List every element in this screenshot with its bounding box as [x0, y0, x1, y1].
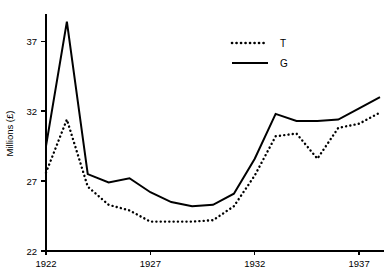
line-chart: 22273237 1922192719321937 Millions (£) T…: [0, 0, 388, 278]
y-axis-title-group: Millions (£): [4, 111, 15, 157]
y-tick-label: 27: [26, 176, 37, 187]
y-tick-label: 32: [26, 106, 37, 117]
legend-label-g: G: [280, 58, 288, 69]
chart-legend: TG: [232, 38, 288, 69]
data-series-group: [46, 22, 380, 222]
legend-label-t: T: [280, 38, 286, 49]
plot-axes: [46, 14, 384, 251]
y-axis-ticks: 22273237: [26, 36, 46, 257]
x-tick-label: 1922: [35, 258, 56, 269]
y-tick-label: 22: [26, 246, 37, 257]
x-tick-label: 1932: [244, 258, 265, 269]
x-axis-ticks: 1922192719321937: [35, 251, 369, 269]
x-tick-label: 1927: [140, 258, 161, 269]
chart-canvas: 22273237 1922192719321937 Millions (£) T…: [0, 0, 388, 278]
series-line-g: [46, 22, 380, 207]
y-tick-label: 37: [26, 36, 37, 47]
x-tick-label: 1937: [349, 258, 370, 269]
y-axis-title: Millions (£): [4, 111, 15, 157]
